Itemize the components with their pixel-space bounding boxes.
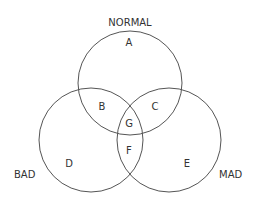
region-g: G [125,118,133,129]
region-d: D [65,158,73,169]
region-b: B [99,101,106,112]
region-c: C [152,101,159,112]
region-e: E [184,158,190,169]
region-f: F [126,145,132,156]
venn-diagram: NORMAL BAD MAD A B C G F D E [0,0,260,204]
circle-bad [39,88,143,192]
label-mad: MAD [219,169,242,180]
region-a: A [126,37,133,48]
label-normal: NORMAL [108,17,152,28]
label-bad: BAD [14,169,36,180]
circle-mad [117,88,221,192]
